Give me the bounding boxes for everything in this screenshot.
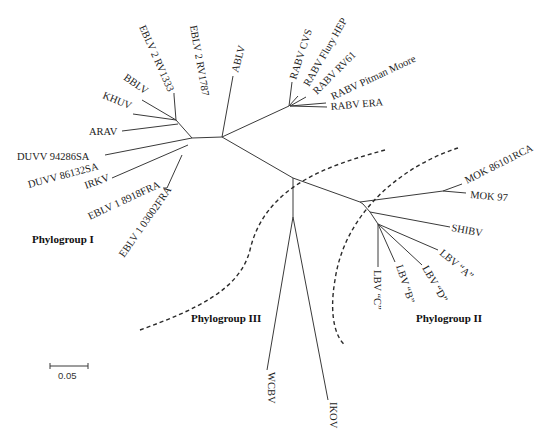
taxon-label: LBV “A”: [438, 247, 476, 282]
taxon-label: MOK 86101RCA: [463, 142, 535, 186]
taxon-label: IRKV: [83, 172, 111, 191]
taxon-label: LBV “D”: [420, 264, 450, 305]
taxon-label: DUVV 94286SA: [17, 151, 90, 162]
taxon-label: ABLV: [229, 44, 247, 74]
taxon-label: BBLV: [122, 72, 151, 97]
phylogroup-label: Phylogroup I: [32, 233, 94, 245]
taxon-label: EBLV 2 RV1787: [188, 24, 211, 96]
taxon-label: KHUV: [101, 90, 134, 112]
taxon-label: ARAV: [89, 126, 118, 137]
taxon-label: IKOV: [328, 402, 339, 429]
scale-bar: 0.05: [50, 363, 88, 381]
phylogroup-label: Phylogroup II: [416, 312, 482, 324]
phylogenetic-tree: EBLV 2 RV1333 EBLV 2 RV1787 BBLV KHUV AR…: [0, 0, 551, 437]
phylogroup-label: Phylogroup III: [191, 312, 261, 324]
taxon-label: LBV “C”: [372, 270, 383, 310]
taxon-label: LBV “B”: [394, 263, 417, 305]
taxon-label: WCBV: [266, 372, 277, 404]
tree-branches: [105, 76, 466, 400]
scale-bar-label: 0.05: [58, 370, 77, 381]
taxon-label: MOK 97: [470, 189, 508, 203]
phylogroup-separator-1: [140, 150, 385, 330]
taxon-label: SHIBV: [451, 222, 484, 238]
